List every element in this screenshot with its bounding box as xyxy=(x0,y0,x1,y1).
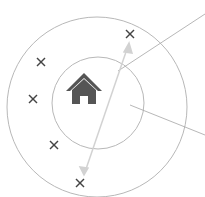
radius-diagram xyxy=(0,0,205,197)
leader-line-top xyxy=(118,14,205,71)
diameter-arrow xyxy=(80,43,132,175)
home-icon xyxy=(66,73,102,104)
x-marker-icon xyxy=(50,141,58,149)
x-markers xyxy=(29,30,134,187)
x-marker-icon xyxy=(29,95,37,103)
outer-circle xyxy=(7,17,187,197)
x-marker-icon xyxy=(37,58,45,66)
x-marker-icon xyxy=(76,179,84,187)
x-marker-icon xyxy=(126,30,134,38)
